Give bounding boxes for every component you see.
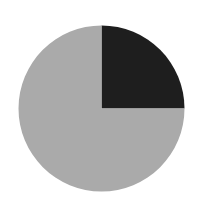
pie-chart xyxy=(0,0,208,207)
pie-chart-svg xyxy=(0,0,208,207)
pie-slice-1 xyxy=(102,26,185,109)
